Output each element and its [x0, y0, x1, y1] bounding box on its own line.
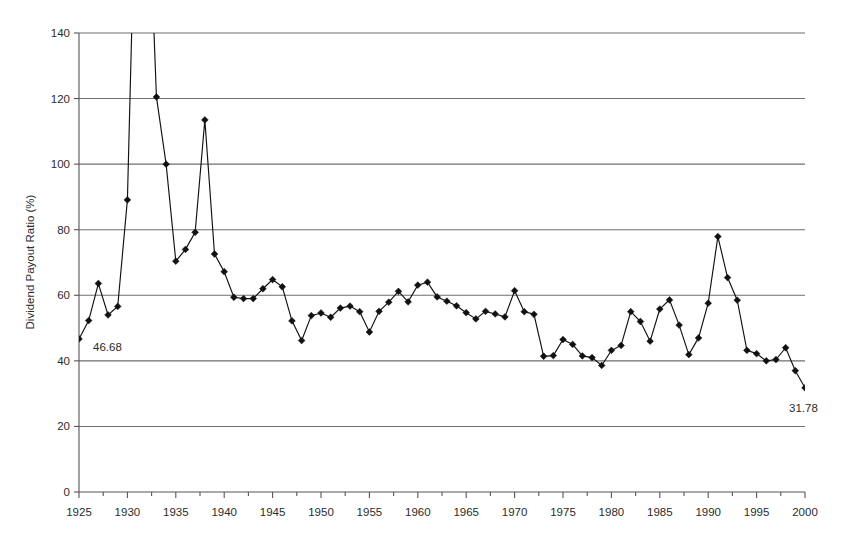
data-point-1955	[366, 329, 373, 336]
data-point-1925	[76, 336, 83, 343]
data-point-1991	[714, 233, 721, 240]
data-point-1954	[356, 308, 363, 315]
data-point-1947	[289, 317, 296, 324]
data-point-1942	[240, 295, 247, 302]
data-point-1999	[792, 367, 799, 374]
data-point-1973	[540, 353, 547, 360]
x-tick-label-1990: 1990	[695, 506, 721, 518]
x-tick-label-1950: 1950	[308, 506, 334, 518]
y-tick-label-60: 60	[57, 289, 70, 301]
y-tick-label-100: 100	[51, 158, 70, 170]
data-point-1934	[163, 161, 170, 168]
data-point-1981	[618, 342, 625, 349]
dividend-payout-ratio-chart: 020406080100120140 192519301935194019451…	[0, 0, 854, 542]
data-point-1933	[153, 94, 160, 101]
x-tick-label-1945: 1945	[260, 506, 286, 518]
data-point-1988	[685, 351, 692, 358]
x-tick-label-1995: 1995	[744, 506, 770, 518]
data-point-1939	[211, 251, 218, 258]
x-tick-label-2000: 2000	[792, 506, 818, 518]
data-point-1949	[308, 312, 315, 319]
x-tick-label-1970: 1970	[502, 506, 528, 518]
data-point-1927	[95, 280, 102, 287]
data-point-1926	[85, 317, 92, 324]
data-point-1994	[744, 347, 751, 354]
data-point-markers	[76, 94, 809, 392]
y-tick-label-0: 0	[64, 486, 70, 498]
data-point-1962	[434, 294, 441, 301]
data-point-2000	[802, 384, 809, 391]
y-tick-label-140: 140	[51, 27, 70, 39]
x-tick-label-1930: 1930	[115, 506, 141, 518]
x-tick-label-1955: 1955	[357, 506, 383, 518]
y-tick-label-120: 120	[51, 93, 70, 105]
data-point-1948	[298, 337, 305, 344]
data-point-1961	[424, 279, 431, 286]
y-tick-label-80: 80	[57, 224, 70, 236]
data-point-1963	[443, 298, 450, 305]
data-point-1930	[124, 196, 131, 203]
data-point-1953	[347, 303, 354, 310]
gridlines	[79, 33, 805, 426]
data-point-1974	[550, 352, 557, 359]
data-point-1984	[647, 338, 654, 345]
x-tick-label-1940: 1940	[211, 506, 237, 518]
data-point-1975	[560, 336, 567, 343]
data-point-1968	[492, 311, 499, 318]
data-point-1969	[502, 314, 509, 321]
chart-canvas: 020406080100120140 192519301935194019451…	[0, 0, 854, 542]
annotation-46.68: 46.68	[93, 341, 122, 353]
annotation-31.78: 31.78	[789, 402, 818, 414]
x-tick-label-1975: 1975	[550, 506, 576, 518]
axis-lines	[79, 33, 805, 492]
x-tick-label-1925: 1925	[66, 506, 92, 518]
y-tick-label-40: 40	[57, 355, 70, 367]
data-point-1960	[414, 282, 421, 289]
x-tick-label-1965: 1965	[453, 506, 479, 518]
data-point-1972	[531, 311, 538, 318]
x-tick-label-1935: 1935	[163, 506, 189, 518]
data-point-1987	[676, 322, 683, 329]
series-group	[76, 0, 809, 391]
value-annotations: 46.6831.78	[93, 341, 818, 414]
x-tick-label-1980: 1980	[599, 506, 625, 518]
x-axis-ticks: 1925193019351940194519501955196019651970…	[66, 492, 818, 518]
x-tick-label-1960: 1960	[405, 506, 431, 518]
data-point-1989	[695, 335, 702, 342]
data-point-1993	[734, 297, 741, 304]
data-point-1992	[724, 274, 731, 281]
data-point-1950	[318, 310, 325, 317]
data-point-1940	[221, 268, 228, 275]
data-point-1971	[521, 308, 528, 315]
data-point-1938	[201, 116, 208, 123]
x-tick-label-1985: 1985	[647, 506, 673, 518]
y-axis-title: Dividend Payout Ratio (%)	[24, 194, 36, 329]
y-axis-ticks: 020406080100120140	[51, 27, 79, 498]
data-point-1980	[608, 347, 615, 354]
payout-ratio-line	[79, 0, 805, 388]
y-tick-label-20: 20	[57, 420, 70, 432]
data-point-1970	[511, 287, 518, 294]
data-point-1990	[705, 300, 712, 307]
